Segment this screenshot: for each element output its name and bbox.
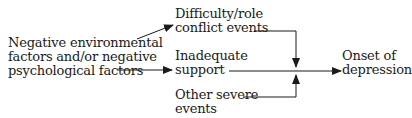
node-difficulty-line2: conflict events xyxy=(175,21,268,35)
arrow-difficulty-to-junction xyxy=(254,31,296,67)
node-support-line1: Inadequate xyxy=(175,49,248,63)
node-difficulty: Difficulty/role conflict events xyxy=(175,7,268,35)
node-cause-line2: factors and/or negative xyxy=(8,50,163,64)
node-outcome: Onset of depression xyxy=(342,49,412,77)
node-difficulty-line1: Difficulty/role xyxy=(175,7,268,21)
node-severe: Other severe events xyxy=(175,88,258,116)
node-outcome-line2: depression xyxy=(342,63,412,77)
node-cause-line1: Negative environmental xyxy=(8,36,163,50)
node-outcome-line1: Onset of xyxy=(342,49,412,63)
node-support-line2: support xyxy=(175,63,248,77)
node-severe-line2: events xyxy=(175,102,258,116)
node-cause: Negative environmental factors and/or ne… xyxy=(8,36,163,78)
node-support: Inadequate support xyxy=(175,49,248,77)
node-severe-line1: Other severe xyxy=(175,88,258,102)
node-cause-line3: psychological factors xyxy=(8,64,163,78)
